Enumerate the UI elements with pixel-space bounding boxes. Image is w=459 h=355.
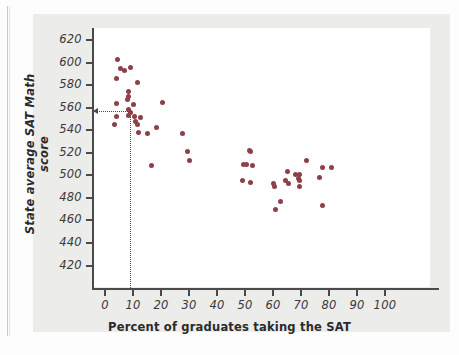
page-edge-rule-secondary — [9, 6, 10, 336]
y-axis-tick-label: 620 — [50, 32, 82, 46]
x-axis-line — [92, 288, 439, 290]
y-axis-tick — [86, 39, 92, 41]
scatter-point — [278, 199, 283, 204]
guide-arrowhead-icon — [93, 108, 98, 114]
x-axis-tick — [160, 290, 162, 296]
y-axis-tick — [86, 242, 92, 244]
scatter-point — [138, 115, 143, 120]
y-axis-tick — [86, 129, 92, 131]
y-axis-tick-label: 500 — [50, 167, 82, 181]
x-axis-tick — [188, 290, 190, 296]
page-edge-rule — [7, 6, 8, 336]
y-axis-tick-label: 600 — [50, 55, 82, 69]
y-axis-tick — [86, 84, 92, 86]
page-container: 420440460480500520540560580600620 010203… — [0, 0, 459, 355]
x-axis-tick — [216, 290, 218, 296]
scatter-point — [317, 175, 322, 180]
y-axis-tick — [86, 107, 92, 109]
y-axis-tick — [86, 265, 92, 267]
scatter-point — [297, 172, 302, 177]
y-axis-tick-label: 460 — [50, 212, 82, 226]
scatter-point — [320, 165, 325, 170]
scatter-point — [114, 101, 119, 106]
scatter-point — [286, 181, 291, 186]
x-axis-tick — [272, 290, 274, 296]
scatter-point — [145, 131, 150, 136]
y-axis-tick — [86, 174, 92, 176]
x-axis-tick — [300, 290, 302, 296]
scatter-point — [187, 158, 192, 163]
x-axis-tick — [328, 290, 330, 296]
scatter-point — [320, 203, 325, 208]
x-axis-tick — [132, 290, 134, 296]
x-axis-title: Percent of graduates taking the SAT — [0, 320, 459, 334]
scatter-point — [114, 114, 119, 119]
y-axis-tick — [86, 152, 92, 154]
scatter-point — [114, 76, 119, 81]
scatter-point — [248, 180, 253, 185]
x-axis-tick — [356, 290, 358, 296]
scatter-point — [250, 163, 255, 168]
scatter-point — [180, 131, 185, 136]
y-axis-tick-label: 420 — [50, 258, 82, 272]
y-axis-tick — [86, 62, 92, 64]
x-axis-tick — [104, 290, 106, 296]
scatter-point — [135, 122, 140, 127]
y-axis-tick-label: 520 — [50, 145, 82, 159]
scatter-point — [160, 100, 165, 105]
scatter-point — [244, 162, 249, 167]
scatter-point — [131, 102, 136, 107]
y-axis-tick-label: 480 — [50, 190, 82, 204]
vertical-guide-line — [130, 111, 131, 288]
x-axis-tick — [384, 290, 386, 296]
x-axis-tick — [244, 290, 246, 296]
scatter-point — [272, 184, 277, 189]
scatter-point — [273, 207, 278, 212]
y-axis-tick-label: 540 — [50, 122, 82, 136]
y-axis-line — [92, 28, 94, 289]
scatter-point — [128, 65, 133, 70]
scatter-point — [122, 68, 127, 73]
horizontal-guide-line — [94, 111, 130, 112]
plot-area — [93, 28, 430, 287]
y-axis-tick-label: 440 — [50, 235, 82, 249]
y-axis-title: State average SAT Math score — [23, 54, 51, 254]
y-axis-tick — [86, 197, 92, 199]
scatter-point — [285, 169, 290, 174]
x-axis-tick-label: 100 — [369, 298, 401, 312]
y-axis-tick-label: 560 — [50, 100, 82, 114]
scatter-point — [115, 57, 120, 62]
y-axis-tick — [86, 219, 92, 221]
y-axis-tick-label: 580 — [50, 77, 82, 91]
scatter-point — [149, 163, 154, 168]
